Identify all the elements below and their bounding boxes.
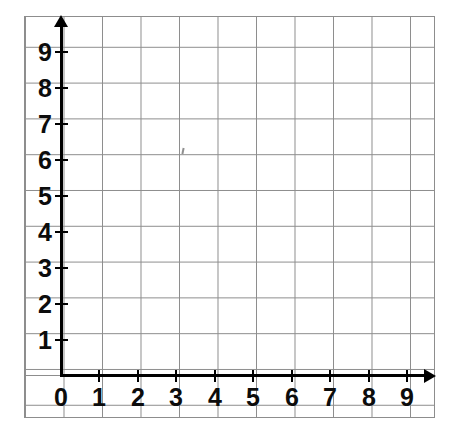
y-axis-tick [55, 159, 68, 161]
y-axis-tick [55, 123, 68, 125]
x-axis-tick-label: 6 [277, 385, 307, 410]
x-axis-tick-label: 7 [315, 385, 345, 410]
x-axis-tick-label: 0 [46, 385, 76, 410]
y-axis-tick-label: 7 [22, 112, 52, 137]
y-axis-tick [55, 87, 68, 89]
y-axis-tick-label: 6 [22, 148, 52, 173]
x-axis-tick [406, 370, 408, 382]
x-axis-tick-label: 2 [123, 385, 153, 410]
x-axis-arrow-icon [424, 369, 436, 383]
y-axis-tick-label: 9 [22, 40, 52, 65]
x-axis-tick [214, 370, 216, 382]
x-axis-tick [137, 370, 139, 382]
y-axis-tick [55, 51, 68, 53]
graph-paper-figure: 987654321 0123456789 [0, 0, 455, 429]
y-axis-tick-label: 2 [22, 292, 52, 317]
y-axis-tick [55, 195, 68, 197]
x-axis-tick-label: 8 [354, 385, 384, 410]
y-axis-arrow-icon [54, 15, 68, 27]
y-axis-tick [55, 267, 68, 269]
y-axis-line [60, 24, 63, 377]
x-axis-tick [368, 370, 370, 382]
x-axis-tick [252, 370, 254, 382]
x-axis-tick [175, 370, 177, 382]
x-axis-line [60, 374, 428, 377]
x-axis-tick-label: 1 [84, 385, 114, 410]
x-axis-tick-label: 4 [200, 385, 230, 410]
y-axis-tick-label: 1 [22, 328, 52, 353]
y-axis-tick [55, 231, 68, 233]
grid-background [24, 16, 435, 418]
y-axis-tick [55, 339, 68, 341]
y-axis-tick-label: 3 [22, 256, 52, 281]
x-axis-tick-label: 5 [238, 385, 268, 410]
x-axis-tick [291, 370, 293, 382]
x-axis-tick-label: 9 [392, 385, 422, 410]
y-axis-tick-label: 5 [22, 184, 52, 209]
y-axis-tick-label: 8 [22, 76, 52, 101]
x-axis-tick [329, 370, 331, 382]
x-axis-tick [98, 370, 100, 382]
x-axis-tick-label: 3 [161, 385, 191, 410]
y-axis-tick [55, 303, 68, 305]
y-axis-tick-label: 4 [22, 220, 52, 245]
